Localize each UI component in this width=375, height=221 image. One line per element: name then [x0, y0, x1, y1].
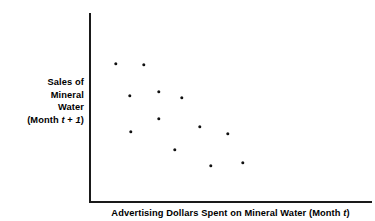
- y-label-plus: +: [65, 115, 76, 125]
- data-point: [114, 62, 117, 65]
- data-point: [128, 94, 131, 97]
- x-label-text: Advertising Dollars Spent on Mineral Wat…: [111, 208, 343, 218]
- data-point: [226, 132, 229, 135]
- x-label-paren-close: ): [346, 208, 349, 218]
- y-axis-label-line-4: (Month t + 1): [6, 114, 84, 127]
- y-label-paren-close: ): [81, 115, 84, 125]
- y-axis-label: Sales of Mineral Water (Month t + 1): [6, 76, 84, 126]
- data-point: [173, 148, 176, 151]
- data-point: [180, 96, 183, 99]
- data-point: [209, 164, 212, 167]
- y-axis-label-line-1: Sales of: [6, 76, 84, 89]
- data-point: [129, 130, 132, 133]
- data-point: [198, 125, 201, 128]
- y-axis-label-line-3: Water: [6, 101, 84, 114]
- x-axis-label: Advertising Dollars Spent on Mineral Wat…: [89, 208, 372, 219]
- y-label-paren-open: (Month: [27, 115, 61, 125]
- y-axis-label-line-2: Mineral: [6, 89, 84, 102]
- scatter-plot-figure: Sales of Mineral Water (Month t + 1) Adv…: [0, 0, 375, 221]
- data-point: [241, 161, 244, 164]
- data-point: [157, 117, 160, 120]
- data-point: [157, 90, 160, 93]
- data-point: [142, 63, 145, 66]
